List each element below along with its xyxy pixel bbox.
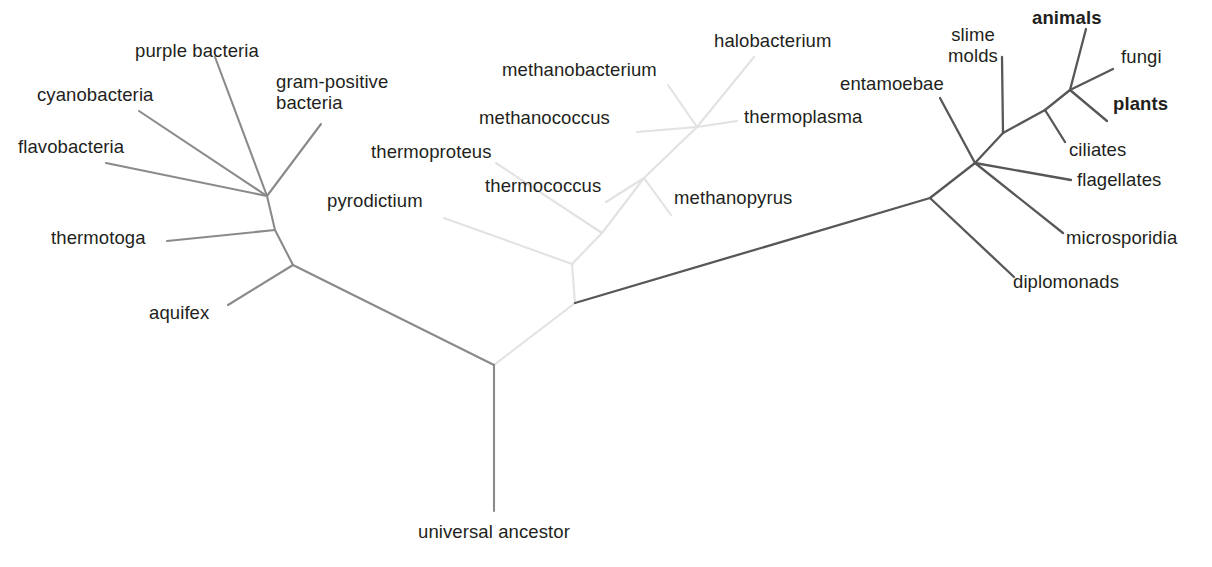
branch-root-to-bacteria_base [293, 265, 494, 365]
branch-archaea_base-to-eukaryota_base [575, 198, 930, 303]
branch-bacteria_base-to-aquifex_tip [228, 265, 293, 305]
branch-crenarchaeota-to-thermoproteus_tip [496, 163, 602, 233]
taxon-label-ciliates: ciliates [1069, 140, 1126, 161]
branch-euk_node2-to-microsporidia_tip [975, 163, 1063, 233]
branch-crenarchaeota-to-euryarchaeota [602, 178, 644, 233]
branch-halo_thermo-to-methanobacterium_tip [668, 85, 697, 127]
archaea-branch-group [444, 57, 754, 365]
taxon-label-halobacterium: halobacterium [714, 31, 832, 52]
branch-euk_node3-to-euk_node4 [1003, 110, 1045, 133]
taxon-label-methanopyrus: methanopyrus [674, 188, 792, 209]
taxon-label-pyrodictium: pyrodictium [327, 191, 423, 212]
taxon-label-plants: plants [1113, 94, 1168, 115]
branch-bacteria_crown-to-gram_positive_tip [267, 124, 321, 196]
branch-archaea_split-to-pyrodictium_tip [444, 218, 572, 264]
taxon-label-thermococcus: thermococcus [485, 176, 601, 197]
taxon-label-flavobacteria: flavobacteria [18, 137, 124, 158]
branch-eukaryota_base-to-diplomonads_tip [930, 198, 1014, 277]
branch-crown_node-to-plants_tip [1070, 90, 1107, 121]
taxon-label-thermoplasma: thermoplasma [744, 107, 862, 128]
taxon-label-methanococcus: methanococcus [479, 108, 610, 129]
branch-euk_node4-to-crown_node [1045, 90, 1070, 110]
branch-bacteria_mid-to-bacteria_crown [267, 196, 275, 230]
branch-bacteria_mid-to-thermotoga_tip [167, 230, 275, 241]
branch-halo_thermo-to-thermoplasma_tip [697, 121, 737, 127]
branch-eukaryota_base-to-euk_node2 [930, 163, 975, 198]
branch-euk_node2-to-flagellates_tip [975, 163, 1071, 180]
taxon-label-purple-bacteria: purple bacteria [135, 41, 259, 62]
branch-euryarchaeota-to-halo_thermo [644, 127, 697, 178]
branch-euk_node3-to-slime_molds_tip [1002, 57, 1003, 133]
taxon-label-fungi: fungi [1121, 47, 1162, 68]
taxon-label-thermoproteus: thermoproteus [371, 142, 492, 163]
taxon-label-methanobacterium: methanobacterium [502, 60, 657, 81]
branch-crown_node-to-animals_tip [1070, 29, 1086, 90]
taxon-label-thermotoga: thermotoga [51, 228, 146, 249]
branch-crown_node-to-fungi_tip [1070, 69, 1113, 90]
branch-euk_node2-to-euk_node3 [975, 133, 1003, 163]
branch-archaea_split-to-crenarchaeota [572, 233, 602, 264]
root-label-universal-ancestor: universal ancestor [344, 522, 644, 543]
phylogenetic-tree-figure: flavobacteriacyanobacteriapurple bacteri… [0, 0, 1212, 567]
branch-bacteria_base-to-bacteria_mid [275, 230, 293, 265]
branch-archaea_base-to-archaea_split [572, 264, 575, 303]
branch-euryarchaeota-to-methanopyrus_tip [644, 178, 671, 215]
branch-euk_node4-to-ciliates_tip [1045, 110, 1065, 142]
taxon-label-flagellates: flagellates [1077, 170, 1161, 191]
taxon-label-gram-positive: gram-positive bacteria [276, 72, 388, 113]
branch-halo_thermo-to-methanococcus_tip [637, 127, 697, 132]
taxon-label-entamoebae: entamoebae [840, 74, 944, 95]
bacteria-branch-group [106, 57, 494, 511]
branch-root-to-archaea_base [494, 303, 575, 365]
taxon-label-animals: animals [1032, 8, 1102, 29]
branch-euk_node2-to-entamoebae_tip [940, 98, 975, 163]
taxon-label-slime-molds: slime molds [903, 25, 1043, 66]
taxon-label-diplomonads: diplomonads [1013, 272, 1119, 293]
taxon-label-microsporidia: microsporidia [1066, 228, 1177, 249]
branch-euryarchaeota-to-thermococcus_tip [606, 178, 644, 202]
taxon-label-cyanobacteria: cyanobacteria [37, 85, 153, 106]
branch-bacteria_crown-to-purple_bacteria_tip [215, 57, 267, 196]
taxon-label-aquifex: aquifex [149, 303, 209, 324]
